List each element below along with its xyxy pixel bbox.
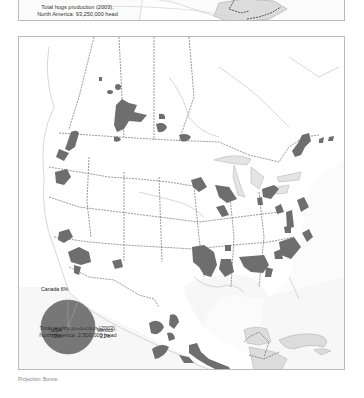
hogs-total-caption: Total hogs production (2003), North Amer… (25, 4, 130, 17)
hogs-map-panel: Total hogs production (2003), North Amer… (18, 0, 345, 21)
pie-label-canada: Canada 6% (41, 286, 68, 292)
hogs-caption-line1: Total hogs production (2003), (25, 4, 130, 11)
poultry-caption-line2: North America: 2,500,000 head (23, 332, 133, 339)
poultry-map-graphic (19, 37, 345, 370)
projection-note: Projection: Bonne (18, 376, 57, 382)
poultry-total-caption: Total poultry production (2003), North A… (23, 325, 133, 338)
poultry-map-panel: Canada 6% USA 73% Mexico 21% Total poult… (18, 36, 345, 370)
hogs-caption-line2: North America: 93,250,000 head (25, 11, 130, 18)
poultry-caption-line1: Total poultry production (2003), (23, 325, 133, 332)
